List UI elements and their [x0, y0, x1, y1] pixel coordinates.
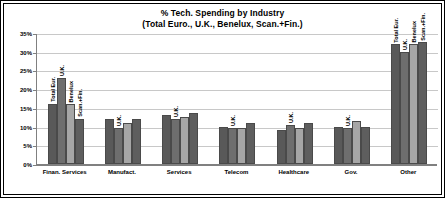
bar[interactable]	[237, 128, 246, 164]
bar[interactable]	[304, 123, 313, 164]
bar-group-bars: U.K.	[323, 33, 380, 164]
bar-slot	[237, 33, 246, 164]
bar[interactable]	[228, 128, 237, 164]
bar-slot: U.K.	[171, 33, 180, 164]
bar[interactable]	[105, 119, 114, 164]
bar-slot: U.K.	[57, 33, 66, 164]
y-axis-tick-label: 20%	[4, 87, 32, 93]
bar[interactable]	[75, 119, 84, 164]
bar[interactable]	[48, 104, 57, 164]
y-axis-tick-label: 5%	[4, 143, 32, 149]
bar-series-label: Scan.+Fin.	[419, 13, 428, 41]
bar-slot: U.K.	[228, 33, 237, 164]
bar-slot: Total Eur.	[391, 33, 400, 164]
bar[interactable]	[219, 127, 228, 164]
bar[interactable]	[391, 44, 400, 164]
bar-slot	[352, 33, 361, 164]
bar-slot	[132, 33, 141, 164]
bar-slot	[334, 33, 343, 164]
bar-slot: Benelux	[409, 33, 418, 164]
bar-group: U.K.	[266, 33, 323, 164]
x-axis-category-label: Telecom	[208, 169, 265, 176]
y-axis-tick-label: 15%	[4, 106, 32, 112]
bar-group: U.K.	[94, 33, 151, 164]
bar[interactable]	[114, 128, 123, 164]
bar-series-label: Scan.+Fin.	[76, 89, 85, 117]
bar[interactable]	[66, 104, 75, 164]
bar-slot: U.K.	[343, 33, 352, 164]
bar[interactable]	[246, 123, 255, 164]
bar-slot: Scan.+Fin.	[75, 33, 84, 164]
bar-slot	[304, 33, 313, 164]
y-axis-tick-label: 30%	[4, 50, 32, 56]
bar[interactable]	[418, 42, 427, 164]
bar[interactable]	[277, 130, 286, 164]
x-axis-category-label: Finan. Services	[36, 169, 93, 176]
bar[interactable]	[343, 128, 352, 164]
chart-title: % Tech. Spending by Industry (Total Euro…	[0, 8, 445, 29]
x-axis-category-label: Gov.	[322, 169, 379, 176]
bar-group-bars: Total Eur.U.K.BeneluxScan.+Fin.	[381, 33, 438, 164]
bar-group-bars: U.K.	[94, 33, 151, 164]
x-axis-category-label: Manufact.	[93, 169, 150, 176]
bar-group-bars: U.K.	[152, 33, 209, 164]
bar-slot: Scan.+Fin.	[418, 33, 427, 164]
bar-group: Total Eur.U.K.BeneluxScan.+Fin.	[37, 33, 94, 164]
bar-slot	[219, 33, 228, 164]
bar-group: Total Eur.U.K.BeneluxScan.+Fin.	[381, 33, 438, 164]
bar-slot	[361, 33, 370, 164]
bar-group-bars: U.K.	[209, 33, 266, 164]
bar-slot: U.K.	[400, 33, 409, 164]
bar-group-bars: Total Eur.U.K.BeneluxScan.+Fin.	[37, 33, 94, 164]
y-axis-tick-label: 35%	[4, 31, 32, 37]
bar[interactable]	[57, 78, 66, 164]
bar-slot	[246, 33, 255, 164]
bar[interactable]	[171, 119, 180, 164]
bar[interactable]	[180, 117, 189, 164]
bar[interactable]	[286, 125, 295, 164]
x-axis-category-label: Other	[380, 169, 437, 176]
bar[interactable]	[189, 113, 198, 164]
bar[interactable]	[352, 121, 361, 164]
bar[interactable]	[162, 115, 171, 164]
bar-slot: U.K.	[114, 33, 123, 164]
chart-subtitle: (Total Euro., U.K., Benelux, Scan.+Fin.)	[0, 19, 445, 30]
bar-slot	[180, 33, 189, 164]
bar[interactable]	[409, 44, 418, 164]
bar-slot	[295, 33, 304, 164]
bar-group-bars: U.K.	[266, 33, 323, 164]
bar-slot	[105, 33, 114, 164]
y-axis-tick-label: 10%	[4, 125, 32, 131]
plot-area: Total Eur.U.K.BeneluxScan.+Fin.U.K.U.K.U…	[36, 34, 437, 165]
bar-slot: U.K.	[286, 33, 295, 164]
bar[interactable]	[132, 119, 141, 164]
chart-screenshot: % Tech. Spending by Industry (Total Euro…	[0, 0, 445, 198]
x-axis-line	[36, 165, 437, 166]
x-axis-category-label: Healthcare	[265, 169, 322, 176]
bar-slot: Total Eur.	[48, 33, 57, 164]
bar[interactable]	[334, 127, 343, 164]
y-axis-tick-label: 0%	[4, 162, 32, 168]
bar-slot	[277, 33, 286, 164]
bar[interactable]	[361, 127, 370, 164]
bar-slot	[162, 33, 171, 164]
bar[interactable]	[295, 128, 304, 164]
bar[interactable]	[123, 123, 132, 164]
x-axis-category-label: Services	[151, 169, 208, 176]
bar-group: U.K.	[209, 33, 266, 164]
bar-group: U.K.	[323, 33, 380, 164]
bar[interactable]	[400, 52, 409, 164]
chart-title-main: % Tech. Spending by Industry	[161, 8, 285, 18]
bar-slot: Benelux	[66, 33, 75, 164]
bar-slot	[123, 33, 132, 164]
bar-slot	[189, 33, 198, 164]
bar-group: U.K.	[152, 33, 209, 164]
y-axis-tick-label: 25%	[4, 68, 32, 74]
